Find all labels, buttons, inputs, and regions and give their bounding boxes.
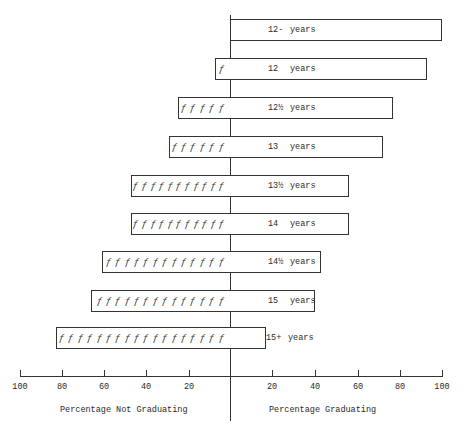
age-value: 14 (268, 213, 290, 235)
age-unit: years (288, 333, 314, 343)
x-tick (146, 370, 147, 377)
running-figure-icon: ƒ (216, 64, 227, 75)
age-unit: years (290, 257, 316, 267)
bar-row (230, 19, 442, 41)
age-unit: years (290, 296, 316, 306)
bar-label: 12-years (268, 19, 316, 41)
x-tick-label: 20 (184, 382, 194, 392)
running-figure-icons: ƒƒƒƒƒ (178, 97, 227, 119)
bar-row (215, 58, 427, 80)
x-axis-label-left: Percentage Not Graduating (60, 405, 188, 415)
bar-label: 12½years (268, 97, 316, 119)
bar-label: 14years (268, 213, 316, 235)
running-figure-icon: ƒ (217, 219, 227, 230)
running-figure-icons: ƒƒƒƒƒƒ (169, 136, 226, 158)
x-tick (189, 370, 190, 377)
x-tick (272, 370, 273, 377)
x-tick-label: 80 (57, 382, 67, 392)
x-tick-label: 60 (353, 382, 363, 392)
running-figure-icon: ƒ (216, 296, 227, 307)
bar-label: 12years (268, 58, 316, 80)
age-value: 14½ (268, 251, 290, 273)
x-tick-label: 20 (267, 382, 277, 392)
age-unit: years (290, 142, 316, 152)
running-figure-icon: ƒ (216, 257, 227, 268)
x-tick-label: 100 (12, 382, 27, 392)
x-tick (104, 370, 105, 377)
age-unit: years (290, 219, 316, 229)
running-figure-icons: ƒƒƒƒƒƒƒƒƒƒƒƒƒƒ (91, 290, 226, 312)
x-tick-label: 40 (141, 382, 151, 392)
age-unit: years (290, 64, 316, 74)
running-figure-icons: ƒƒƒƒƒƒƒƒƒƒƒ (131, 213, 226, 235)
running-figure-icon: ƒ (216, 333, 227, 344)
x-tick (20, 370, 21, 377)
running-figure-icon: ƒ (216, 103, 227, 114)
x-tick (442, 370, 443, 377)
x-tick (400, 370, 401, 377)
x-tick-label: 80 (395, 382, 405, 392)
age-value: 12- (268, 19, 290, 41)
x-tick (358, 370, 359, 377)
bar-label: 13years (268, 136, 316, 158)
running-figure-icons: ƒ (215, 58, 226, 80)
running-figure-icon: ƒ (216, 142, 227, 153)
bar-label: 15+years (266, 327, 314, 349)
running-figure-icon: ƒ (217, 181, 227, 192)
age-unit: years (290, 25, 316, 35)
age-value: 13½ (268, 175, 290, 197)
age-value: 12 (268, 58, 290, 80)
x-tick-label: 40 (310, 382, 320, 392)
x-tick-label: 100 (434, 382, 449, 392)
running-figure-icons: ƒƒƒƒƒƒƒƒƒƒƒƒƒƒƒƒƒƒ (56, 327, 226, 349)
age-unit: years (290, 103, 316, 113)
running-figure-icons: ƒƒƒƒƒƒƒƒƒƒƒ (131, 175, 226, 197)
running-figure-icons: ƒƒƒƒƒƒƒƒƒƒƒƒƒ (102, 251, 226, 273)
x-axis-line (20, 376, 443, 377)
x-tick (62, 370, 63, 377)
x-axis-label-right: Percentage Graduating (269, 405, 376, 415)
bar-label: 13½years (268, 175, 316, 197)
age-value: 15+ (266, 327, 288, 349)
age-unit: years (290, 181, 316, 191)
age-value: 12½ (268, 97, 290, 119)
x-tick-label: 60 (99, 382, 109, 392)
age-value: 13 (268, 136, 290, 158)
age-value: 15 (268, 290, 290, 312)
bar-label: 14½years (268, 251, 316, 273)
x-tick (315, 370, 316, 377)
bar-label: 15years (268, 290, 316, 312)
